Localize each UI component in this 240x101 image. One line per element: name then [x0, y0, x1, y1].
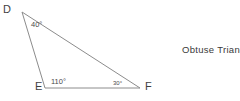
obtuse-triangle-diagram: D E F 40° 110° 30° Obtuse Triangle [0, 0, 240, 101]
diagram-caption: Obtuse Triangle [182, 45, 240, 55]
vertex-label-f: F [145, 81, 152, 92]
angle-measure-f: 30° [113, 80, 122, 86]
vertex-label-d: D [3, 4, 11, 15]
angle-measure-e: 110° [51, 78, 66, 86]
vertex-label-e: E [35, 81, 42, 92]
angle-measure-d: 40° [31, 21, 42, 29]
